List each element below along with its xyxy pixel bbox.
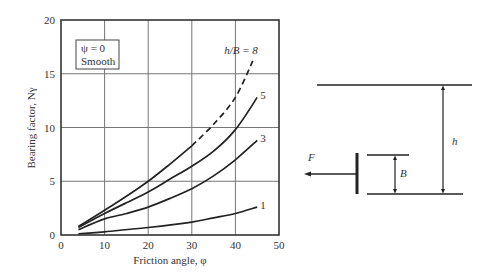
annotation-line-1: ψ = 0 (81, 42, 106, 54)
force-label: F (307, 151, 315, 163)
y-tick-label: 20 (44, 14, 56, 26)
x-tick-label: 40 (230, 239, 242, 251)
curve (78, 207, 257, 234)
y-axis-label: Bearing factor, Nγ (25, 87, 37, 168)
figure: 0102030405005101520 h/B = 8531 ψ = 0 Smo… (0, 0, 489, 278)
y-tick-label: 10 (44, 122, 56, 134)
x-axis-label: Friction angle, φ (133, 254, 206, 266)
annotation-line-2: Smooth (81, 55, 116, 67)
x-tick-label: 50 (274, 239, 286, 251)
x-tick-label: 10 (99, 239, 111, 251)
arrow-up-icon (441, 86, 445, 91)
curve-label: h/B = 8 (224, 44, 258, 56)
annotation-box: ψ = 0 Smooth (76, 40, 119, 69)
curve-label: 1 (260, 199, 266, 211)
x-tick-label: 20 (143, 239, 155, 251)
curve (78, 97, 257, 227)
arrow-up-icon (393, 156, 397, 161)
depth-label: h (452, 135, 458, 147)
y-tick-label: 0 (50, 229, 56, 241)
force-arrow-head-icon (304, 172, 311, 177)
curve-solid (78, 146, 191, 227)
width-label: B (400, 167, 407, 179)
chart-curves (78, 61, 257, 234)
arrow-down-icon (393, 189, 397, 194)
arrow-down-icon (441, 189, 445, 194)
x-tick-label: 30 (186, 239, 198, 251)
curve-label: 3 (260, 132, 266, 144)
y-tick-label: 5 (50, 175, 56, 187)
geometry-diagram: F B h (304, 85, 472, 194)
x-tick-label: 0 (58, 239, 64, 251)
y-tick-label: 15 (44, 68, 56, 80)
curve-label: 5 (260, 89, 266, 101)
curve (78, 140, 257, 229)
